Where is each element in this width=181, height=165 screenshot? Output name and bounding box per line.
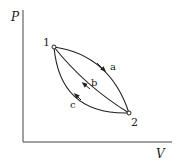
pv-diagram: P V 1 2 a b c xyxy=(0,0,181,165)
point-1-label: 1 xyxy=(43,36,50,49)
path-b-arrow-icon xyxy=(84,84,90,89)
path-c-label: c xyxy=(70,99,76,110)
x-axis-label: V xyxy=(156,147,166,161)
point-2-marker xyxy=(127,111,131,115)
point-2-label: 2 xyxy=(131,116,138,129)
point-1-marker xyxy=(52,45,56,49)
path-a-arrow-icon xyxy=(97,63,104,70)
path-a-label: a xyxy=(110,61,116,72)
path-b-label: b xyxy=(91,77,97,88)
y-axis-label: P xyxy=(10,10,20,24)
